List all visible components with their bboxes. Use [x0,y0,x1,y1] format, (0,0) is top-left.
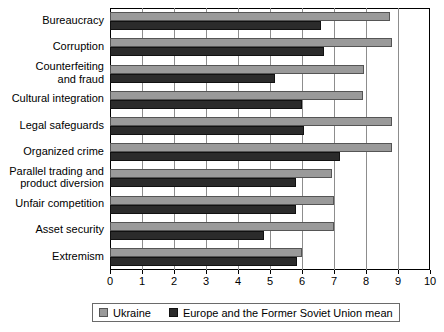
category-axis-labels: BureaucracyCorruptionCounterfeitingand f… [0,8,444,270]
category-label: Extremism [0,250,104,263]
x-tick-6 [302,270,303,274]
x-tick-label: 7 [331,275,337,287]
x-tick-label: 0 [107,275,113,287]
x-tick-7 [334,270,335,274]
x-axis: 012345678910 [110,270,430,296]
chart-legend: UkraineEurope and the Former Soviet Unio… [92,303,400,322]
x-tick-3 [206,270,207,274]
legend-label: Ukraine [113,307,151,319]
x-tick-label: 8 [363,275,369,287]
legend-item: Ukraine [99,307,151,319]
category-label: Unfair competition [0,197,104,210]
category-label: Legal safeguards [0,119,104,132]
x-tick-label: 9 [395,275,401,287]
category-label: Asset security [0,223,104,236]
x-tick-label: 2 [171,275,177,287]
x-tick-label: 3 [203,275,209,287]
x-tick-10 [430,270,431,274]
x-tick-1 [142,270,143,274]
x-tick-label: 5 [267,275,273,287]
x-tick-0 [110,270,111,274]
category-label: Bureaucracy [0,14,104,27]
x-tick-label: 1 [139,275,145,287]
x-tick-label: 4 [235,275,241,287]
legend-swatch-eurmean [169,308,178,317]
x-tick-label: 10 [424,275,436,287]
category-label: Counterfeitingand fraud [0,60,104,85]
legend-label: Europe and the Former Soviet Union mean [183,307,393,319]
legend-swatch-ukraine [99,308,108,317]
x-tick-label: 6 [299,275,305,287]
category-label: Parallel trading andproduct diversion [0,165,104,190]
category-label: Organized crime [0,145,104,158]
category-label: Cultural integration [0,92,104,105]
x-tick-2 [174,270,175,274]
x-tick-5 [270,270,271,274]
category-label: Corruption [0,40,104,53]
x-tick-4 [238,270,239,274]
x-tick-8 [366,270,367,274]
legend-item: Europe and the Former Soviet Union mean [169,307,393,319]
horizontal-bar-chart: BureaucracyCorruptionCounterfeitingand f… [0,0,444,332]
x-tick-9 [398,270,399,274]
